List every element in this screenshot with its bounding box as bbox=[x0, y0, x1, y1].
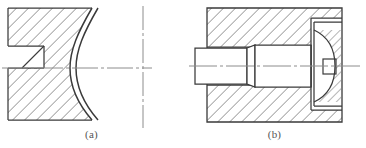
figure-a-drawing bbox=[0, 0, 183, 148]
figure-a-caption: (a) bbox=[0, 128, 183, 140]
figure-b-caption: (b) bbox=[183, 128, 366, 140]
technical-drawing-plate: (a) bbox=[0, 0, 366, 148]
figure-b-panel: (b) bbox=[183, 0, 366, 148]
figure-b-drawing bbox=[183, 0, 366, 148]
section-hatching-a bbox=[0, 0, 183, 148]
figure-a-panel: (a) bbox=[0, 0, 183, 148]
